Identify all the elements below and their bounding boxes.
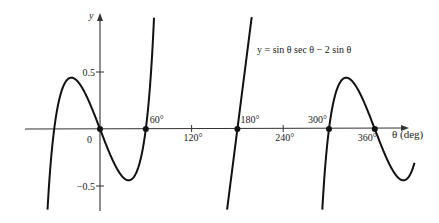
- x-axis-label: θ (deg): [392, 128, 424, 141]
- x-tick-label: 180°: [240, 114, 259, 125]
- curve-branch: [48, 18, 154, 210]
- equation-label: y = sin θ sec θ − 2 sin θ: [257, 44, 351, 55]
- y-axis-label: y: [88, 10, 94, 21]
- x-tick-label: 300°: [308, 114, 327, 125]
- x-tick-label: 240°: [275, 132, 294, 143]
- y-tick-label: −0.5: [77, 181, 95, 192]
- function-curve: [48, 17, 415, 210]
- zero-point-marker: [97, 126, 103, 132]
- trig-function-plot: θ (deg) y 0 60°120°180°240°300°360°0.5−0…: [0, 0, 439, 223]
- zero-point-marker: [143, 126, 149, 132]
- y-tick-label: 0.5: [83, 67, 96, 78]
- zero-point-marker: [326, 126, 332, 132]
- zero-point-marker: [372, 126, 378, 132]
- y-axis-arrow-icon: [97, 13, 103, 21]
- zero-point-marker: [234, 126, 240, 132]
- x-tick-label: 120°: [184, 132, 203, 143]
- curve-branch: [322, 78, 414, 210]
- x-tick-label: 60°: [150, 114, 164, 125]
- x-tick-label: 360°: [358, 132, 377, 143]
- origin-label: 0: [87, 134, 92, 145]
